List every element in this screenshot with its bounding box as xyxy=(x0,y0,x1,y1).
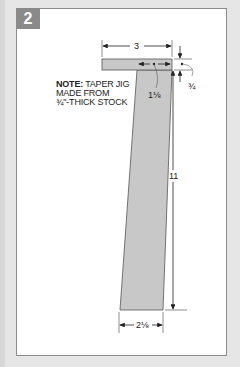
dim-length: 11 xyxy=(169,171,178,181)
dim-notch-width: 1⅛ xyxy=(148,90,161,100)
dim-bottom-width: 2⅛ xyxy=(136,320,149,330)
dim-top-width: 3 xyxy=(134,41,139,51)
taper-jig-diagram: 3 1⅛ ¾ 11 2⅛ xyxy=(0,0,240,367)
jig-body xyxy=(120,70,172,310)
dim-thickness: ¾ xyxy=(188,81,196,91)
jig-top-bar xyxy=(102,59,172,70)
